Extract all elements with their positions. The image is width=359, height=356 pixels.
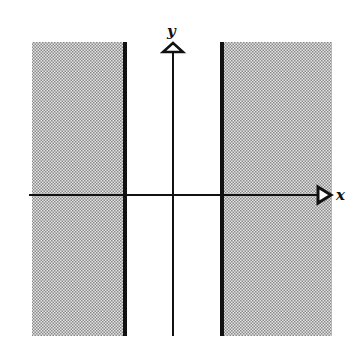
right-shaded-region bbox=[222, 42, 332, 336]
y-axis-label: y bbox=[166, 22, 177, 40]
x-axis-label: x bbox=[335, 186, 346, 204]
left-boundary-line bbox=[123, 42, 127, 336]
right-boundary-line bbox=[220, 42, 224, 336]
y-axis-arrow-icon bbox=[163, 43, 183, 52]
inequality-graph: x y bbox=[0, 0, 359, 356]
left-shaded-region bbox=[32, 42, 125, 336]
